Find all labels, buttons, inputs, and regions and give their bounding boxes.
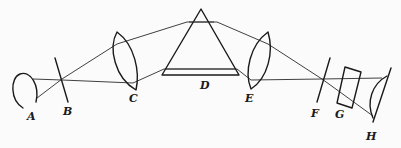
source-arc-a	[13, 73, 37, 108]
label-f: F	[310, 107, 320, 120]
slit-f	[317, 58, 330, 102]
optical-diagram: A B C D E F G H	[0, 0, 401, 148]
label-b: B	[62, 105, 72, 118]
lens-c	[113, 32, 137, 90]
label-e: E	[244, 92, 254, 105]
label-h: H	[365, 130, 377, 143]
lens-e	[248, 32, 270, 89]
label-d: D	[199, 79, 210, 92]
label-c: C	[129, 92, 138, 105]
cell-g	[337, 67, 361, 108]
label-a: A	[26, 110, 36, 123]
label-g: G	[335, 108, 344, 121]
mirror-h	[370, 68, 391, 122]
prism-d	[162, 9, 239, 75]
